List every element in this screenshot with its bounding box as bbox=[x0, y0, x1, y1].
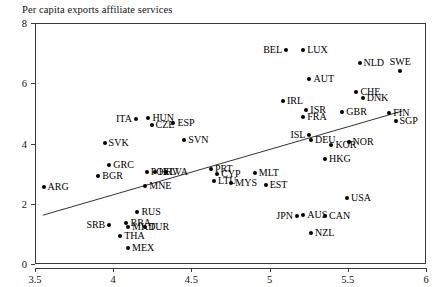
data-point bbox=[229, 181, 233, 185]
data-point bbox=[212, 179, 216, 183]
data-point bbox=[309, 138, 313, 142]
point-label: ESP bbox=[177, 118, 194, 128]
point-label: ARG bbox=[48, 182, 69, 192]
y-tick-label: 8 bbox=[22, 18, 27, 29]
y-tick-label: 6 bbox=[22, 78, 27, 89]
point-label: THA bbox=[124, 231, 145, 241]
point-label: LVA bbox=[170, 167, 188, 177]
y-tick-label: 2 bbox=[22, 198, 27, 209]
point-label: HKG bbox=[329, 154, 351, 164]
y-tick-label: 4 bbox=[22, 138, 27, 149]
data-point bbox=[150, 123, 154, 127]
point-label: LUX bbox=[307, 45, 328, 55]
point-label: MEX bbox=[132, 243, 154, 253]
x-tick-label: 6 bbox=[423, 274, 428, 285]
point-label: EST bbox=[270, 180, 288, 190]
y-tick-mark bbox=[31, 83, 35, 84]
data-point bbox=[387, 111, 391, 115]
point-label: GRC bbox=[113, 160, 134, 170]
x-tick-mark bbox=[35, 268, 36, 272]
x-tick-label: 5.5 bbox=[341, 274, 354, 285]
data-point bbox=[347, 140, 351, 144]
point-label: USA bbox=[351, 193, 371, 203]
point-label: ISL bbox=[290, 130, 305, 140]
plot-area: ARGBGRGRCSVKITAHUNCZEESPSVNPOLHRVLVAMNEP… bbox=[35, 23, 426, 264]
x-axis-line bbox=[35, 268, 426, 269]
point-label: MLT bbox=[259, 168, 279, 178]
y-tick-label: 0 bbox=[22, 259, 27, 270]
point-label: GBR bbox=[346, 107, 367, 117]
data-point bbox=[103, 141, 107, 145]
point-label: IRL bbox=[287, 96, 303, 106]
x-tick-mark bbox=[270, 268, 271, 272]
x-tick-mark bbox=[348, 268, 349, 272]
data-point bbox=[264, 183, 268, 187]
x-tick-mark bbox=[113, 268, 114, 272]
point-label: CAN bbox=[329, 211, 350, 221]
point-label: NOR bbox=[353, 137, 374, 147]
point-label: RUS bbox=[141, 207, 160, 217]
data-point bbox=[323, 214, 327, 218]
x-tick-label: 5 bbox=[267, 274, 272, 285]
y-tick-mark bbox=[31, 204, 35, 205]
data-point bbox=[295, 214, 299, 218]
x-tick-label: 3.5 bbox=[28, 274, 41, 285]
point-label: FRA bbox=[307, 112, 326, 122]
x-tick-label: 4 bbox=[111, 274, 116, 285]
point-label: TUR bbox=[149, 222, 169, 232]
scatter-plot-figure: Per capita exports affiliate services AR… bbox=[0, 0, 447, 287]
data-point bbox=[143, 225, 147, 229]
data-point bbox=[134, 117, 138, 121]
data-point bbox=[126, 225, 130, 229]
point-label: SGP bbox=[400, 116, 418, 126]
point-label: BEL bbox=[263, 45, 282, 55]
data-point bbox=[358, 61, 362, 65]
point-label: SRB bbox=[86, 220, 105, 230]
point-label: MNE bbox=[149, 181, 171, 191]
data-point bbox=[145, 170, 149, 174]
point-label: BGR bbox=[102, 171, 123, 181]
point-label: SVK bbox=[109, 138, 129, 148]
data-point bbox=[394, 119, 398, 123]
point-label: DNK bbox=[367, 93, 389, 103]
point-label: MYS bbox=[235, 178, 257, 188]
data-point bbox=[361, 96, 365, 100]
data-point bbox=[42, 185, 46, 189]
data-point bbox=[253, 171, 257, 175]
point-label: SVN bbox=[188, 135, 208, 145]
x-tick-mark bbox=[191, 268, 192, 272]
y-axis-line bbox=[35, 23, 36, 264]
point-label: ITA bbox=[116, 114, 132, 124]
point-label: SWE bbox=[390, 57, 411, 67]
x-tick-mark bbox=[426, 268, 427, 272]
point-label: DEU bbox=[315, 135, 336, 145]
point-label: NLD bbox=[364, 58, 385, 68]
point-label: LTU bbox=[218, 176, 237, 186]
page-title: Per capita exports affiliate services bbox=[22, 4, 172, 15]
data-point bbox=[281, 99, 285, 103]
point-label: JPN bbox=[276, 211, 293, 221]
y-tick-mark bbox=[31, 264, 35, 265]
point-label: AUT bbox=[313, 74, 334, 84]
x-tick-label: 4.5 bbox=[185, 274, 198, 285]
data-point bbox=[153, 170, 157, 174]
y-tick-mark bbox=[31, 23, 35, 24]
data-point bbox=[107, 163, 111, 167]
point-label: NZL bbox=[315, 228, 334, 238]
y-tick-mark bbox=[31, 144, 35, 145]
